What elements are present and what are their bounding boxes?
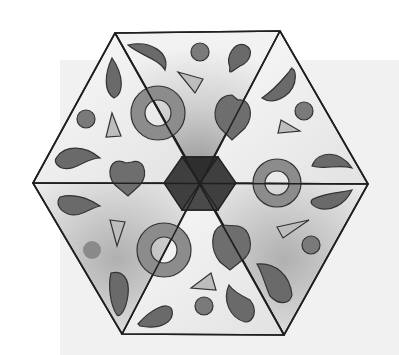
hexagon-illustration (0, 0, 399, 355)
